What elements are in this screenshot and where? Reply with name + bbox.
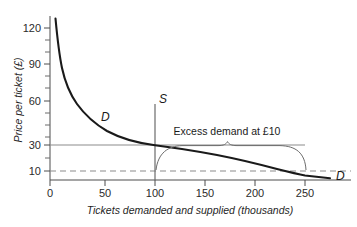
demand-curve-path [56, 19, 331, 179]
y-tick-label-90: 90 [29, 58, 41, 70]
economics-demand-supply-chart: 120 90 60 30 10 0 50 100 150 200 250 S D [0, 0, 357, 227]
y-axis-title: Price per ticket (£) [12, 57, 24, 142]
x-tick-label-0: 0 [47, 187, 53, 199]
x-axis-major-ticks [50, 180, 305, 186]
excess-demand-label: Excess demand at £10 [174, 125, 281, 137]
excess-demand-brace [156, 142, 306, 170]
x-tick-label-200: 200 [246, 187, 264, 199]
y-axis-major-ticks [44, 28, 50, 171]
x-tick-label-150: 150 [196, 187, 214, 199]
x-axis-title: Tickets demanded and supplied (thousands… [87, 204, 294, 216]
y-tick-label-60: 60 [29, 95, 41, 107]
y-tick-label-120: 120 [23, 22, 41, 34]
supply-curve-label: S [159, 92, 167, 106]
x-tick-label-250: 250 [296, 187, 314, 199]
chart-canvas: 120 90 60 30 10 0 50 100 150 200 250 S D [0, 0, 357, 227]
x-tick-label-100: 100 [146, 187, 164, 199]
demand-curve-label: D [101, 110, 110, 124]
demand-curve-label-right: D [336, 169, 345, 183]
axis-lines [50, 16, 351, 180]
y-tick-label-10: 10 [29, 165, 41, 177]
y-axis-minor-ticks [45, 40, 50, 158]
y-tick-label-30: 30 [29, 139, 41, 151]
x-tick-label-50: 50 [99, 187, 111, 199]
